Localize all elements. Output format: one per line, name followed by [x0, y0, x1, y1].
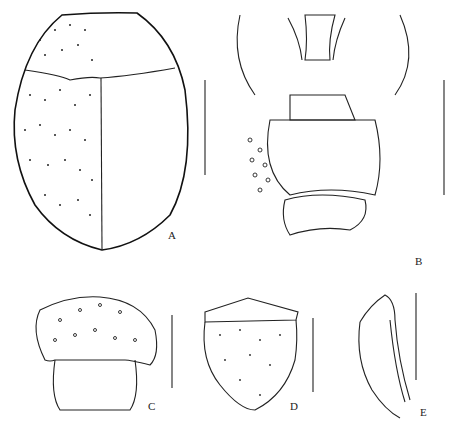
panel-a-drawing	[14, 13, 205, 250]
panel-e-drawing	[359, 293, 416, 418]
panel-label-e: E	[420, 406, 427, 418]
panel-label-d: D	[290, 400, 298, 412]
panel-label-c: C	[148, 400, 155, 412]
panel-c-drawing	[36, 297, 172, 410]
panel-b-drawing	[237, 15, 444, 235]
panel-label-b: B	[415, 255, 422, 267]
panel-d-drawing	[204, 298, 313, 410]
panel-label-a: A	[168, 229, 176, 241]
figure-plate	[0, 0, 452, 429]
